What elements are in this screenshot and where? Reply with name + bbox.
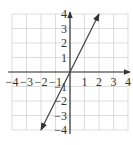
y-tick-label: 3: [61, 22, 67, 36]
x-tick-label: −2: [35, 75, 48, 89]
coordinate-plane: −4−3−2−112344321−1−2−3−4: [0, 0, 133, 145]
x-tick-label: 2: [96, 75, 102, 89]
x-tick-label: −3: [20, 75, 33, 89]
y-tick-label: 1: [61, 51, 67, 65]
x-tick-label: 4: [125, 75, 131, 89]
x-tick-label: 1: [82, 75, 88, 89]
x-tick-label: −4: [6, 75, 19, 89]
y-tick-label: 4: [61, 7, 67, 21]
y-tick-label: −4: [54, 123, 67, 137]
y-tick-label: −3: [54, 109, 67, 123]
y-tick-label: 2: [61, 36, 67, 50]
x-tick-label: 3: [111, 75, 117, 89]
